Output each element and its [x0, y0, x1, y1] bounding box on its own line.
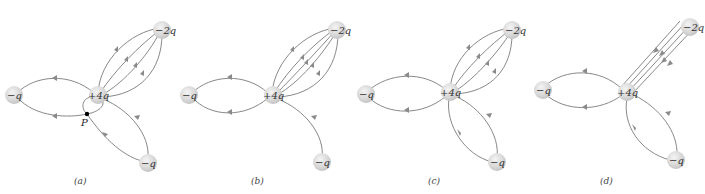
charge-plus-4q-a: +4q [88, 86, 109, 104]
panel-label-b: (b) [251, 176, 264, 186]
charge-minus-q-left-d: −q [534, 81, 552, 99]
panel-c: −2q +4q −q −q (c) [357, 21, 526, 186]
charge-minus-q-bottom-d: −q [667, 151, 685, 169]
svg-text:+4q: +4q [263, 90, 284, 101]
svg-text:−q: −q [7, 90, 22, 101]
charge-minus-q-left-a: −q [5, 86, 23, 104]
charge-minus-q-bottom-a: −q [139, 154, 157, 172]
svg-text:−q: −q [182, 90, 197, 101]
svg-text:P: P [80, 117, 88, 128]
svg-text:+4q: +4q [88, 90, 109, 101]
svg-text:−q: −q [536, 85, 551, 96]
charge-minus-2q-b: −2q [328, 21, 351, 39]
svg-text:−q: −q [490, 157, 505, 168]
charge-minus-2q-c: −2q [503, 21, 526, 39]
charge-minus-q-bottom-b: −q [313, 153, 331, 171]
charge-minus-q-left-b: −q [180, 86, 198, 104]
panel-d: −2q +4q −q −q (d) [534, 18, 704, 186]
panel-label-c: (c) [428, 176, 441, 186]
svg-text:+4q: +4q [440, 87, 461, 98]
svg-text:−q: −q [669, 155, 684, 166]
field-lines-figure: −2q +4q −q −q P (a) [0, 0, 705, 194]
panel-b: −2q +4q −q −q (b) [180, 21, 351, 186]
charge-minus-2q-a: −2q [153, 21, 176, 39]
svg-text:+4q: +4q [617, 87, 638, 98]
charge-minus-q-left-c: −q [357, 85, 375, 103]
charge-minus-q-bottom-c: −q [488, 153, 506, 171]
panel-label-a: (a) [74, 176, 87, 186]
svg-text:−2q: −2q [155, 25, 176, 36]
svg-text:−2q: −2q [683, 22, 704, 33]
svg-text:−q: −q [315, 157, 330, 168]
svg-text:−2q: −2q [330, 25, 351, 36]
svg-text:−q: −q [359, 89, 374, 100]
svg-text:−q: −q [141, 158, 156, 169]
charge-plus-4q-d: +4q [617, 83, 638, 101]
charge-minus-2q-d: −2q [681, 18, 704, 36]
svg-text:−2q: −2q [505, 25, 526, 36]
panel-a: −2q +4q −q −q P (a) [5, 21, 176, 186]
panel-label-d: (d) [600, 176, 613, 186]
